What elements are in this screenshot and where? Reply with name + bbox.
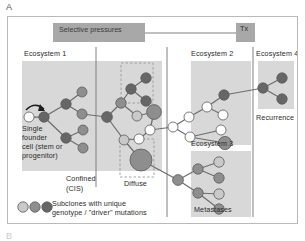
- treatment-label: Tx: [240, 25, 248, 34]
- subclone-node-e4a: [258, 83, 268, 93]
- subclone-node-n15: [145, 125, 155, 135]
- subclone-node-n16: [134, 134, 144, 144]
- subclone-node-n6: [78, 125, 88, 135]
- figure-root: A Selective pressures Tx Ecosystem 1 Eco…: [0, 0, 305, 241]
- legend-swatch-light: [18, 202, 28, 212]
- subclone-node-n2: [61, 99, 71, 109]
- subclone-node-n18: [130, 149, 152, 171]
- subclone-node-e3e: [193, 188, 203, 198]
- ecosystem-3-label: Ecosystem 3: [191, 140, 233, 149]
- ecosystem-1-label: Ecosystem 1: [24, 50, 66, 59]
- confined-label-line2: (CIS): [66, 185, 83, 194]
- legend-swatch-medium: [30, 202, 40, 212]
- subclone-node-e2e: [218, 110, 228, 120]
- subclone-node-e3a: [173, 175, 184, 186]
- ecosystem-4-label: Ecosystem 4: [256, 50, 298, 59]
- subclone-node-e3b: [193, 164, 203, 174]
- subclone-node-e2c: [202, 102, 212, 112]
- confined-label-line1: Confined: [66, 175, 96, 184]
- figure-frame: Selective pressures Tx Ecosystem 1 Ecosy…: [7, 16, 298, 224]
- subclone-node-e3d: [214, 173, 224, 183]
- subclone-node-e2g: [216, 125, 226, 135]
- subclone-node-e3f: [214, 189, 224, 199]
- subclone-node-n10: [126, 84, 136, 94]
- subclone-node-n11: [141, 73, 151, 83]
- subclone-node-founder: [24, 112, 34, 122]
- subclone-node-e2b: [184, 112, 194, 122]
- ecosystem-2-label: Ecosystem 2: [191, 50, 233, 59]
- subclone-node-n5: [61, 133, 71, 143]
- subclone-node-n4: [77, 109, 87, 119]
- legend-line-2: genotype / "driver" mutations: [52, 209, 147, 218]
- panel-label-b: B: [6, 231, 12, 241]
- diffuse-label: Diffuse: [124, 180, 147, 189]
- subclone-node-n14: [147, 105, 162, 120]
- panel-label-a: A: [6, 2, 12, 12]
- subclone-node-n3: [77, 87, 87, 97]
- founder-label-line4: progenitor): [22, 152, 58, 161]
- subclone-node-e3c: [214, 157, 224, 167]
- subclone-node-n12: [141, 96, 151, 106]
- subclone-node-n1: [39, 112, 49, 122]
- subclone-node-n13: [132, 111, 142, 121]
- subclone-node-e4c: [277, 94, 287, 104]
- subclone-node-e4b: [277, 73, 287, 83]
- subclone-node-n9: [116, 98, 126, 108]
- subclone-node-e2d: [219, 90, 229, 100]
- subclone-node-n17: [119, 135, 129, 145]
- metastases-label: Metastases: [194, 206, 232, 215]
- subclone-node-n7: [78, 143, 88, 153]
- selective-pressures-label: Selective pressures: [59, 25, 122, 34]
- recurrence-label: Recurrence: [256, 114, 294, 123]
- subclone-node-n8: [102, 112, 113, 123]
- legend-swatch-dark: [42, 202, 52, 212]
- subclone-node-e2a: [168, 122, 178, 132]
